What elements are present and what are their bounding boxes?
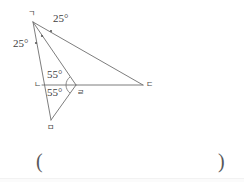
figure-svg bbox=[0, 0, 244, 145]
screenshot-root: ㄱ ㄴ ㄷ ㄹ ㅁ 25° 25° 55° 55° ( ) bbox=[0, 0, 244, 182]
vertex-label-mieum: ㅁ bbox=[47, 124, 54, 132]
answer-open-paren: ( bbox=[36, 151, 43, 171]
angle-tick-top-inner bbox=[41, 35, 43, 37]
angle-label-25-top: 25° bbox=[53, 13, 68, 24]
angle-label-55-upper: 55° bbox=[47, 69, 62, 80]
vertex-label-rieul: ㄹ bbox=[77, 89, 84, 97]
angle-tick-top-outer bbox=[50, 30, 52, 32]
vertex-label-nieun: ㄴ bbox=[34, 81, 41, 89]
vertex-label-giyeok: ㄱ bbox=[28, 10, 35, 18]
vertex-label-digeut: ㄷ bbox=[146, 81, 153, 89]
answer-blank[interactable]: ( ) bbox=[0, 145, 244, 182]
angle-tick-left bbox=[35, 42, 37, 44]
page-bottom-edge bbox=[0, 178, 244, 182]
angle-label-25-left: 25° bbox=[13, 38, 28, 49]
answer-close-paren: ) bbox=[218, 151, 225, 171]
angle-label-55-lower: 55° bbox=[47, 87, 62, 98]
geometry-figure: ㄱ ㄴ ㄷ ㄹ ㅁ 25° 25° 55° 55° bbox=[0, 0, 244, 145]
